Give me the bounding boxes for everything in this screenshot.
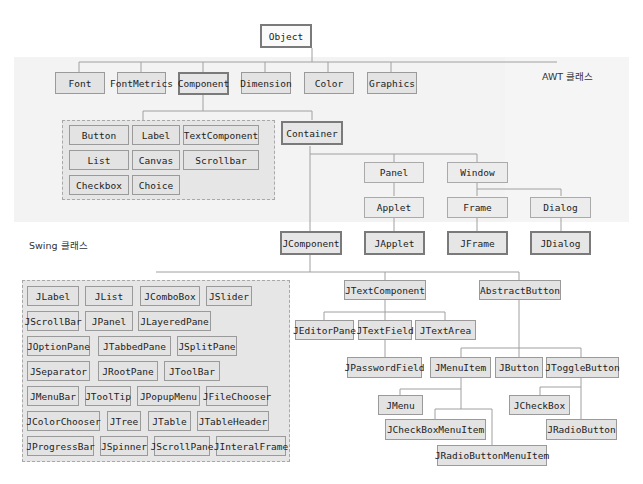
- class-jmenuitem: JMenuItem: [430, 357, 491, 378]
- class-jtextcomponent: JTextComponent: [344, 280, 426, 300]
- class-jprogressbar: JProgressBar: [27, 436, 94, 456]
- class-dimension: Dimension: [241, 72, 291, 94]
- class-applet: Applet: [364, 197, 424, 218]
- class-object: Object: [260, 24, 312, 48]
- class-component: Component: [178, 72, 229, 95]
- class-panel: Panel: [364, 162, 424, 183]
- class-jscrollbar: JScrollBar: [27, 311, 79, 331]
- class-jpanel: JPanel: [85, 311, 133, 331]
- class-japplet: JApplet: [364, 231, 425, 255]
- class-jradiobutton: JRadioButton: [546, 419, 617, 440]
- class-jcheckboxmenuitem: JCheckBoxMenuItem: [385, 419, 486, 440]
- class-jfilechooser: JFileChooser: [206, 386, 268, 406]
- class-jpasswordfield: JPasswordField: [347, 357, 422, 378]
- class-jcheckbox: JCheckBox: [509, 395, 570, 415]
- class-choice: Choice: [132, 175, 180, 195]
- class-jtable: JTable: [148, 411, 191, 431]
- class-color: Color: [304, 72, 354, 94]
- class-frame: Frame: [447, 197, 508, 218]
- class-jrootpane: JRootPane: [98, 361, 158, 381]
- class-jtogglebutton: JToggleButton: [546, 357, 619, 378]
- class-jradiobuttonmenuitem: JRadioButtonMenuItem: [437, 445, 547, 466]
- class-joptionpane: JOptionPane: [27, 336, 90, 356]
- class-jslider: JSlider: [206, 286, 252, 306]
- class-jspinner: JSpinner: [100, 436, 148, 456]
- class-abstractbutton: AbstractButton: [479, 280, 561, 300]
- class-button: Button: [69, 125, 129, 145]
- awt-label: AWT 클래스: [542, 69, 593, 83]
- class-jseparator: JSeparator: [27, 361, 90, 381]
- class-jlabel: JLabel: [27, 286, 79, 306]
- class-label: Label: [132, 125, 180, 145]
- class-jsplitpane: JSplitPane: [177, 336, 237, 356]
- class-jinteralframe: JInteralFrame: [216, 436, 286, 456]
- class-jcombobox: JComboBox: [140, 286, 200, 306]
- class-jlayeredpane: JLayeredPane: [138, 311, 211, 331]
- class-jbutton: JButton: [495, 357, 543, 378]
- class-fontmetrics: FontMetrics: [117, 72, 166, 94]
- class-textcomponent: TextComponent: [183, 125, 259, 145]
- class-jlist: JList: [85, 286, 133, 306]
- class-container: Container: [281, 121, 343, 145]
- class-jtoolbar: JToolBar: [164, 361, 220, 381]
- class-jtree: JTree: [107, 411, 141, 431]
- class-list: List: [69, 150, 129, 170]
- class-window: Window: [447, 162, 508, 183]
- class-jtextarea: JTextArea: [415, 320, 476, 340]
- class-scrollbar: Scrollbar: [183, 150, 259, 170]
- swing-label: Swing 클래스: [29, 238, 88, 252]
- class-graphics: Graphics: [367, 72, 417, 94]
- class-jtableheader: JTableHeader: [197, 411, 269, 431]
- class-jcolorchooser: JColorChooser: [27, 411, 100, 431]
- class-jframe: JFrame: [447, 231, 508, 255]
- class-jtextfield: JTextField: [358, 320, 412, 340]
- class-jcomponent: JComponent: [280, 231, 342, 255]
- class-jpopupmenu: JPopupMenu: [137, 386, 200, 406]
- class-jtabbedpane: JTabbedPane: [98, 336, 171, 356]
- class-dialog: Dialog: [530, 197, 591, 218]
- class-font: Font: [55, 72, 105, 94]
- class-jmenubar: JMenuBar: [27, 386, 79, 406]
- class-jscrollpane: JScrollPane: [154, 436, 210, 456]
- class-checkbox: Checkbox: [69, 175, 129, 195]
- class-jeditorpane: JEditorPane: [295, 320, 354, 340]
- class-jmenu: JMenu: [378, 395, 423, 415]
- class-canvas: Canvas: [132, 150, 180, 170]
- class-jtooltip: JToolTip: [85, 386, 131, 406]
- class-jdialog: JDialog: [530, 231, 591, 255]
